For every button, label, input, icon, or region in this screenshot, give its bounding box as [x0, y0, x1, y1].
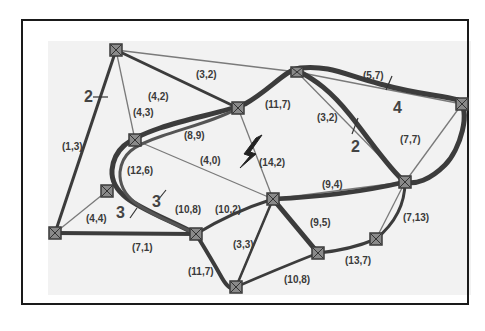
edge-label: (10,8)	[284, 274, 310, 285]
node-n7[interactable]	[399, 176, 411, 188]
edge-label: (11,7)	[188, 266, 214, 277]
node-n11[interactable]	[370, 233, 382, 245]
edge-label: (1,3)	[62, 141, 83, 152]
network-diagram: (3,2) (4,2) (4,3) (1,3) (8,9) (11,7) (5,…	[0, 0, 485, 331]
edge-n9-n10	[55, 233, 196, 234]
edge-label: (12,6)	[127, 165, 153, 176]
edge-label: (4,3)	[133, 107, 154, 118]
capacity-label: 2	[351, 138, 360, 155]
edge-label: (4,4)	[86, 213, 107, 224]
node-n4[interactable]	[232, 102, 244, 114]
edge-label: (3,3)	[233, 239, 254, 250]
edge-label: (4,2)	[148, 91, 169, 102]
edge-label: (5,7)	[363, 70, 384, 81]
node-n5[interactable]	[129, 134, 141, 146]
edge-label: (11,7)	[265, 99, 291, 110]
node-n10[interactable]	[190, 228, 202, 240]
edge-label: (7,7)	[400, 134, 421, 145]
edge-label: (9,5)	[310, 217, 331, 228]
edge-label: (7,13)	[403, 212, 429, 223]
edge-label: (10,8)	[175, 204, 201, 215]
edge-label: (4,0)	[200, 155, 221, 166]
node-n2[interactable]	[291, 67, 303, 77]
edge-label: (7,1)	[132, 242, 153, 253]
edge-label: (3,2)	[196, 69, 217, 80]
node-n8[interactable]	[267, 193, 279, 205]
edge-label: (10,2)	[215, 204, 241, 215]
capacity-label: 3	[116, 204, 125, 221]
node-n9[interactable]	[49, 227, 61, 239]
edge-label: (14,2)	[259, 157, 285, 168]
edge-label: (3,2)	[317, 112, 338, 123]
node-n6[interactable]	[101, 185, 113, 197]
edge-label: (13,7)	[345, 255, 371, 266]
node-n1[interactable]	[110, 44, 122, 56]
node-n12[interactable]	[312, 247, 324, 259]
capacity-label: 4	[393, 99, 402, 116]
node-n13[interactable]	[230, 281, 242, 293]
capacity-label: 3	[152, 193, 161, 210]
capacity-label: 2	[84, 88, 93, 105]
edge-label: (9,4)	[322, 179, 343, 190]
edge-label: (8,9)	[184, 130, 205, 141]
node-n3[interactable]	[456, 98, 468, 110]
